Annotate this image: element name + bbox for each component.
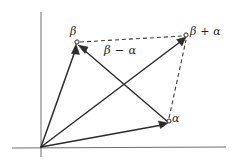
vector-origin-to-alpha: [41, 125, 162, 147]
label-beta-minus-alpha: β − α: [104, 45, 136, 57]
arrowhead-beta-plus-alpha: [177, 37, 187, 46]
vector-diagram-figure: β β + α α β − α: [0, 0, 237, 165]
vector-origin-to-beta-plus-alpha: [41, 42, 180, 147]
vector-origin-to-beta: [41, 51, 75, 147]
label-alpha: α: [172, 113, 180, 124]
label-beta: β: [70, 26, 77, 37]
arrowhead-alpha: [159, 121, 169, 129]
dashed-edge-beta-to-beta-plus-alpha: [80, 36, 183, 42]
node-marker-beta: [75, 40, 79, 44]
label-beta-plus-alpha: β + α: [190, 26, 221, 37]
node-marker-alpha: [167, 119, 171, 123]
node-marker-beta-plus-alpha: [184, 33, 188, 37]
dashed-edge-alpha-to-beta-plus-alpha: [169, 40, 186, 118]
